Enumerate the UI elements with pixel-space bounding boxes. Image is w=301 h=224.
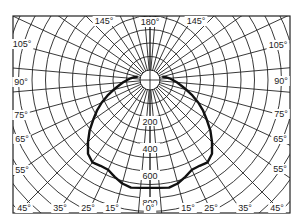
angle-tick-label: 105° bbox=[269, 40, 288, 50]
angle-tick-label: 90° bbox=[14, 77, 28, 87]
radial-tick-label: 200 bbox=[142, 117, 157, 127]
grid-ring bbox=[0, 0, 301, 224]
angle-tick-label: 90° bbox=[274, 76, 288, 86]
angle-tick-label: 145° bbox=[95, 16, 114, 26]
radial-tick-label: 400 bbox=[142, 144, 157, 154]
angle-tick-label: 35° bbox=[238, 203, 252, 213]
grid-ring bbox=[0, 0, 301, 224]
angle-tick-label: 65° bbox=[15, 134, 29, 144]
polar-grid bbox=[0, 0, 301, 224]
polar-intensity-chart: 200400600800 180°145°145°105°105°90°90°7… bbox=[0, 0, 301, 224]
angle-tick-label: 180° bbox=[141, 17, 160, 27]
angle-tick-label: 25° bbox=[81, 203, 95, 213]
grid-ring bbox=[0, 0, 301, 224]
angle-tick-label: 45° bbox=[270, 203, 284, 213]
angle-tick-label: 75° bbox=[274, 109, 288, 119]
grid-ring bbox=[0, 0, 301, 224]
grid-spoke bbox=[0, 0, 146, 71]
radial-tick-label: 600 bbox=[142, 171, 157, 181]
grid-ring bbox=[0, 0, 301, 224]
angle-tick-label: 55° bbox=[273, 164, 287, 174]
angle-tick-label: 65° bbox=[273, 134, 287, 144]
grid-ring bbox=[0, 0, 301, 224]
angle-tick-label: 145° bbox=[187, 16, 206, 26]
angle-tick-label: 105° bbox=[13, 39, 32, 49]
grid-spoke bbox=[0, 0, 142, 74]
angle-tick-label: 25° bbox=[204, 203, 218, 213]
angle-tick-label: 45° bbox=[17, 203, 31, 213]
angle-tick-label: 35° bbox=[53, 203, 67, 213]
angle-tick-label: 15° bbox=[105, 203, 119, 213]
grid-spoke bbox=[0, 45, 140, 79]
grid-spoke bbox=[159, 0, 301, 76]
angle-tick-label: 75° bbox=[14, 110, 28, 120]
grid-spoke bbox=[154, 0, 301, 71]
grid-spoke bbox=[0, 0, 141, 76]
grid-spoke bbox=[0, 0, 143, 73]
grid-ring bbox=[0, 0, 301, 224]
grid-ring bbox=[0, 0, 301, 224]
angle-tick-label: 55° bbox=[15, 165, 29, 175]
angle-tick-label: 15° bbox=[181, 203, 195, 213]
angle-tick-label: 0° bbox=[146, 203, 155, 213]
grid-ring bbox=[0, 0, 301, 224]
grid-ring bbox=[0, 0, 301, 224]
grid-spoke bbox=[157, 0, 301, 73]
